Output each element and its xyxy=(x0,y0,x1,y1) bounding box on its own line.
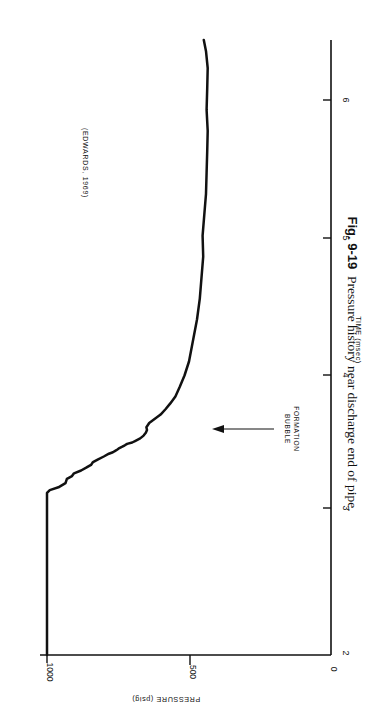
bubble-formation-line2: FORMATION xyxy=(293,406,300,451)
figure-caption-text: Pressure history near discharge end of p… xyxy=(345,275,360,511)
figure-caption-number: Fig. 9-19 xyxy=(345,216,360,269)
pressure-tick-label-1000: 1000 xyxy=(45,663,55,682)
figure-caption: Fig. 9-19 Pressure history near discharg… xyxy=(344,216,360,511)
figure-caption-container: Fig. 9-19 Pressure history near discharg… xyxy=(318,0,385,727)
pressure-tick-label-500: 500 xyxy=(188,665,198,679)
source-note: (EDWARDS, 1969) xyxy=(81,128,89,198)
pressure-axis-title: PRESSURE (psig) xyxy=(132,695,201,704)
bubble-formation-line1: BUBBLE xyxy=(284,414,291,444)
